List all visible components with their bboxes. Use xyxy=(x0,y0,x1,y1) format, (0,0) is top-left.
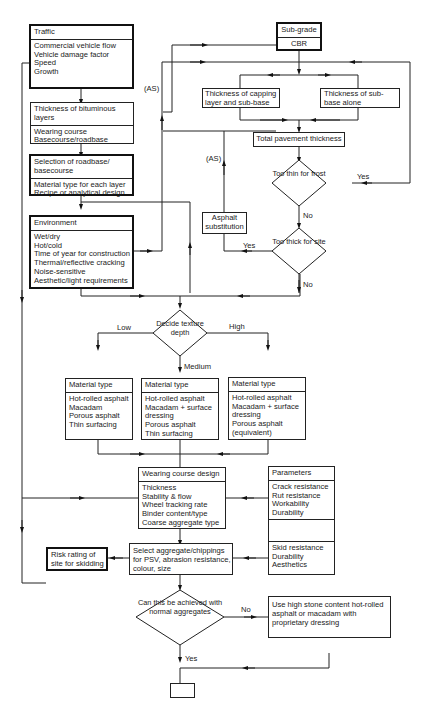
traffic-box: Traffic Commercial vehicle flow Vehicle … xyxy=(29,24,134,89)
wearing-course-design-box: Wearing course design Thickness Stabilit… xyxy=(138,467,226,529)
material-type-medium-box: Material type Hot-rolled asphalt Macadam… xyxy=(141,378,219,440)
parameters-box: Parameters Crack resistance Rut resistan… xyxy=(268,466,335,575)
asphalt-substitution-box: Asphalt substitution xyxy=(202,212,247,234)
material-item: Thin surfacing xyxy=(69,421,129,430)
thick-text: thick for xyxy=(286,237,312,246)
material-type-low-box: Material type Hot-rolled asphalt Macadam… xyxy=(65,378,133,440)
total-label: Total pavement thickness xyxy=(256,134,341,143)
texture-high-label: High xyxy=(229,322,245,331)
frost-decision-diamond xyxy=(272,160,326,206)
wearing-design-title: Wearing course design xyxy=(139,468,225,482)
frost-decision-text: Too thin for frost xyxy=(272,170,326,179)
environment-box: Environment Wet/dry Hot/cold Time of yea… xyxy=(29,215,134,289)
as-label-upper: (AS) xyxy=(144,84,159,93)
parameters-title: Parameters xyxy=(269,467,334,481)
material-high-title: Material type xyxy=(229,378,305,392)
wearing-item: Coarse aggregate type xyxy=(142,519,222,528)
material-item: Thin surfacing xyxy=(145,430,215,439)
frost-text: frost xyxy=(311,169,325,178)
bituminous-title: layers xyxy=(34,114,130,123)
material-medium-title: Material type xyxy=(142,379,218,393)
normal-aggregates-decision-text: Can this be achieved with normal aggrega… xyxy=(136,599,224,616)
normal-yes-label: Yes xyxy=(185,654,197,663)
environment-item: Aesthetic/light requirements xyxy=(34,277,129,286)
roadbase-item: Recipe or analytical design xyxy=(34,189,129,198)
end-box xyxy=(170,683,195,698)
total-pavement-thickness-box: Total pavement thickness xyxy=(253,132,345,147)
material-item: (equivalent) xyxy=(232,429,302,438)
frost-text: Too xyxy=(272,169,284,178)
asphalt-sub-text: substitution xyxy=(204,223,245,232)
parameter-item: Durability xyxy=(272,509,331,518)
roadbase-title: basecourse xyxy=(34,167,129,176)
texture-low-label: Low xyxy=(117,323,131,332)
bituminous-thickness-box: Thickness of bituminous layers Wearing c… xyxy=(30,102,134,144)
thick-text: site xyxy=(314,237,326,246)
thick-no-label: No xyxy=(303,280,313,289)
texture-text: depth xyxy=(171,328,190,337)
capping-thickness-box: Thickness of capping layer and sub-base xyxy=(202,88,280,108)
as-label-lower: (AS) xyxy=(206,154,221,163)
traffic-item: Growth xyxy=(34,68,129,77)
bituminous-item: Basecourse/roadbase xyxy=(34,136,130,145)
texture-medium-label: Medium xyxy=(184,362,211,371)
thick-text: Too xyxy=(272,237,284,246)
frost-yes-label: Yes xyxy=(357,172,369,181)
risk-rating-box: Risk rating of site for skidding xyxy=(46,547,108,571)
thick-decision-text: Too thick for site xyxy=(272,238,326,247)
texture-decision-text: Decide texture depth xyxy=(153,320,207,337)
thick-decision-diamond xyxy=(272,228,326,274)
capping-text: layer and sub-base xyxy=(205,99,277,108)
high-stone-text: proprietary dressing xyxy=(272,619,387,628)
frost-text: thin for xyxy=(286,169,309,178)
parameter-item: Aesthetics xyxy=(272,561,331,570)
subbase-text: base alone xyxy=(324,99,396,108)
normal-no-label: No xyxy=(241,605,251,614)
frost-no-label: No xyxy=(303,211,313,220)
select-aggregate-text: colour, size xyxy=(133,565,229,574)
subgrade-box: Sub-grade CBR xyxy=(276,22,322,51)
roadbase-selection-box: Selection of roadbase/ basecourse Materi… xyxy=(29,154,134,196)
material-low-title: Material type xyxy=(66,379,132,393)
high-stone-content-box: Use high stone content hot-rolled asphal… xyxy=(268,596,391,638)
traffic-title: Traffic xyxy=(31,26,132,40)
thick-yes-label: Yes xyxy=(243,241,255,250)
normal-text: aggregates xyxy=(174,607,211,616)
material-type-high-box: Material type Hot-rolled asphalt Macadam… xyxy=(228,377,306,440)
risk-rating-text: site for skidding xyxy=(51,560,103,569)
subgrade-title: Sub-grade xyxy=(278,24,320,38)
environment-title: Environment xyxy=(31,217,132,231)
select-aggregate-box: Select aggregate/chippings for PSV, abra… xyxy=(129,543,233,575)
subbase-thickness-box: Thickness of sub- base alone xyxy=(320,88,400,108)
subgrade-value: CBR xyxy=(278,38,320,51)
